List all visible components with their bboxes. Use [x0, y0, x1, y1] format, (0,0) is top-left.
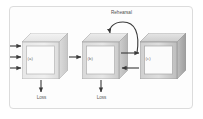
loss-label-a: Loss: [33, 96, 50, 101]
arrows-layer: [0, 0, 203, 119]
rehearsal-label: Rehearsal: [111, 11, 132, 16]
diagram-figure: (a): [0, 0, 203, 119]
loss-label-b: Loss: [93, 96, 110, 101]
arrow-rehearsal-loop: [110, 22, 138, 53]
input-arrows: [10, 46, 21, 68]
